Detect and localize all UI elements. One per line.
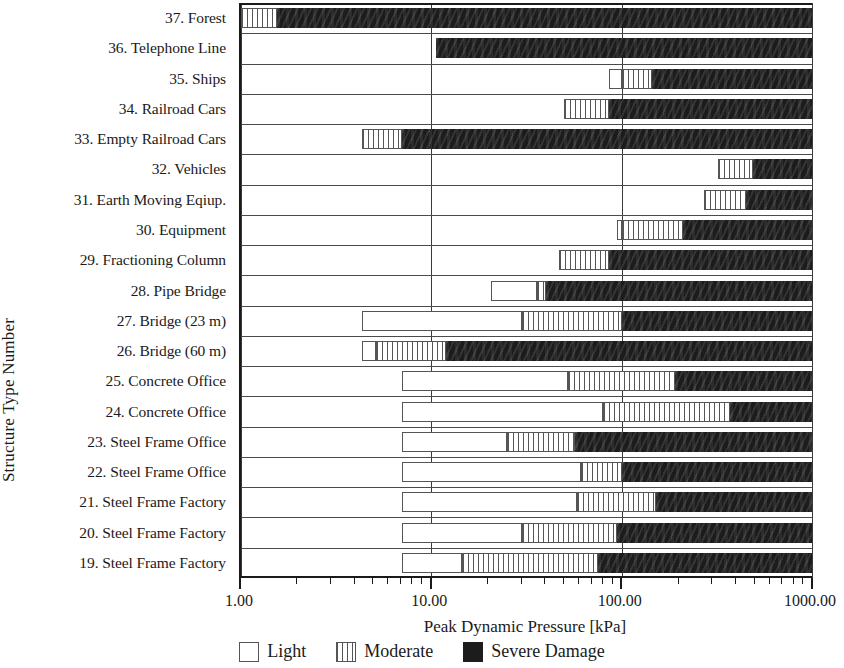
bar-segment-moderate bbox=[581, 462, 622, 482]
legend-item-moderate: Moderate bbox=[336, 641, 433, 662]
x-tick-major bbox=[239, 578, 241, 589]
x-tick-minor bbox=[602, 578, 603, 584]
x-tick-minor bbox=[781, 578, 782, 584]
legend-swatch-light-icon bbox=[239, 642, 259, 662]
bar-segment-light bbox=[402, 462, 581, 482]
bar-segment-moderate bbox=[507, 432, 575, 452]
x-tick-label: 10.00 bbox=[411, 592, 447, 610]
x-tick-minor bbox=[563, 578, 564, 584]
plot-top-border bbox=[241, 3, 812, 5]
category-label: 33. Empty Railroad Cars bbox=[20, 124, 232, 154]
x-tick-minor bbox=[612, 578, 613, 584]
category-label: 27. Bridge (23 m) bbox=[20, 306, 232, 336]
bar-segment-severe bbox=[652, 69, 812, 89]
bar-segment-light bbox=[402, 432, 507, 452]
bar-segment-severe bbox=[546, 281, 812, 301]
x-tick-minor bbox=[711, 578, 712, 584]
bar-segment-severe bbox=[617, 523, 812, 543]
bar-segment-moderate bbox=[622, 69, 653, 89]
legend-label-severe: Severe Damage bbox=[491, 641, 604, 662]
x-tick-minor bbox=[544, 578, 545, 584]
x-tick-minor bbox=[769, 578, 770, 584]
bar-row bbox=[241, 215, 812, 245]
bar-segment-severe bbox=[575, 432, 812, 452]
x-axis-tick-labels: 1.0010.00100.001000.00 bbox=[0, 592, 844, 614]
x-tick-minor bbox=[330, 578, 331, 584]
x-tick-minor bbox=[487, 578, 488, 584]
x-tick-minor bbox=[754, 578, 755, 584]
category-label: 30. Equipment bbox=[20, 215, 232, 245]
bar-row bbox=[241, 33, 812, 63]
legend-swatch-moderate-icon bbox=[336, 642, 356, 662]
bar-row bbox=[241, 366, 812, 396]
category-label: 19. Steel Frame Factory bbox=[20, 548, 232, 578]
bar-row bbox=[241, 275, 812, 305]
legend-swatch-severe-icon bbox=[463, 642, 483, 662]
category-label: 32. Vehicles bbox=[20, 154, 232, 184]
x-tick-minor bbox=[400, 578, 401, 584]
bar-segment-severe bbox=[446, 341, 812, 361]
legend: Light Moderate Severe Damage bbox=[0, 641, 844, 662]
bar-segment-light bbox=[491, 281, 538, 301]
bar-segment-severe bbox=[598, 553, 812, 573]
bar-segment-moderate bbox=[603, 402, 730, 422]
x-tick-label: 1.00 bbox=[225, 592, 253, 610]
y-axis-category-labels: 37. Forest36. Telephone Line35. Ships34.… bbox=[20, 3, 232, 578]
bar-row bbox=[241, 306, 812, 336]
bar-row bbox=[241, 185, 812, 215]
bar-segment-severe bbox=[436, 38, 812, 58]
category-label: 21. Steel Frame Factory bbox=[20, 487, 232, 517]
x-tick-minor bbox=[578, 578, 579, 584]
bar-row bbox=[241, 548, 812, 578]
bar-segment-moderate bbox=[559, 250, 609, 270]
bar-row bbox=[241, 64, 812, 94]
bar-row bbox=[241, 336, 812, 366]
bar-segment-moderate bbox=[362, 129, 402, 149]
bar-segment-severe bbox=[622, 311, 812, 331]
bar-segment-moderate bbox=[522, 311, 622, 331]
x-tick-minor bbox=[521, 578, 522, 584]
x-tick-major bbox=[811, 578, 813, 589]
bar-segment-moderate bbox=[568, 371, 675, 391]
bar-segment-light bbox=[609, 69, 621, 89]
bar-segment-severe bbox=[609, 99, 812, 119]
bar-row bbox=[241, 124, 812, 154]
bar-segment-moderate bbox=[241, 8, 277, 28]
x-tick-label: 100.00 bbox=[598, 592, 642, 610]
bar-segment-light bbox=[402, 402, 603, 422]
bar-segment-moderate bbox=[564, 99, 609, 119]
x-tick-minor bbox=[793, 578, 794, 584]
x-axis-ticks bbox=[239, 578, 811, 590]
bar-segment-light bbox=[402, 553, 462, 573]
bar-row bbox=[241, 518, 812, 548]
category-label: 29. Fractioning Column bbox=[20, 245, 232, 275]
x-tick-minor bbox=[387, 578, 388, 584]
x-tick-minor bbox=[678, 578, 679, 584]
x-axis-title: Peak Dynamic Pressure [kPa] bbox=[239, 617, 811, 637]
bar-segment-light bbox=[402, 371, 568, 391]
x-tick-minor bbox=[735, 578, 736, 584]
x-tick-minor bbox=[354, 578, 355, 584]
bar-segment-moderate bbox=[537, 281, 546, 301]
category-label: 23. Steel Frame Office bbox=[20, 427, 232, 457]
category-label: 31. Earth Moving Eqiup. bbox=[20, 185, 232, 215]
legend-item-severe: Severe Damage bbox=[463, 641, 604, 662]
x-tick-minor bbox=[372, 578, 373, 584]
category-label: 22. Steel Frame Office bbox=[20, 457, 232, 487]
x-tick-label: 1000.00 bbox=[784, 592, 836, 610]
x-tick-major bbox=[430, 578, 432, 589]
bar-segment-moderate bbox=[704, 190, 746, 210]
bar-segment-light bbox=[362, 311, 523, 331]
category-label: 24. Concrete Office bbox=[20, 396, 232, 426]
x-tick-major bbox=[620, 578, 622, 589]
bar-segment-severe bbox=[683, 220, 812, 240]
bar-row bbox=[241, 245, 812, 275]
category-label: 28. Pipe Bridge bbox=[20, 275, 232, 305]
x-tick-minor bbox=[591, 578, 592, 584]
chart-figure: Structure Type Number 37. Forest36. Tele… bbox=[0, 0, 844, 668]
bar-segment-severe bbox=[622, 462, 812, 482]
legend-label-light: Light bbox=[267, 641, 306, 662]
category-label: 20. Steel Frame Factory bbox=[20, 518, 232, 548]
bar-segment-severe bbox=[675, 371, 812, 391]
category-label: 35. Ships bbox=[20, 64, 232, 94]
